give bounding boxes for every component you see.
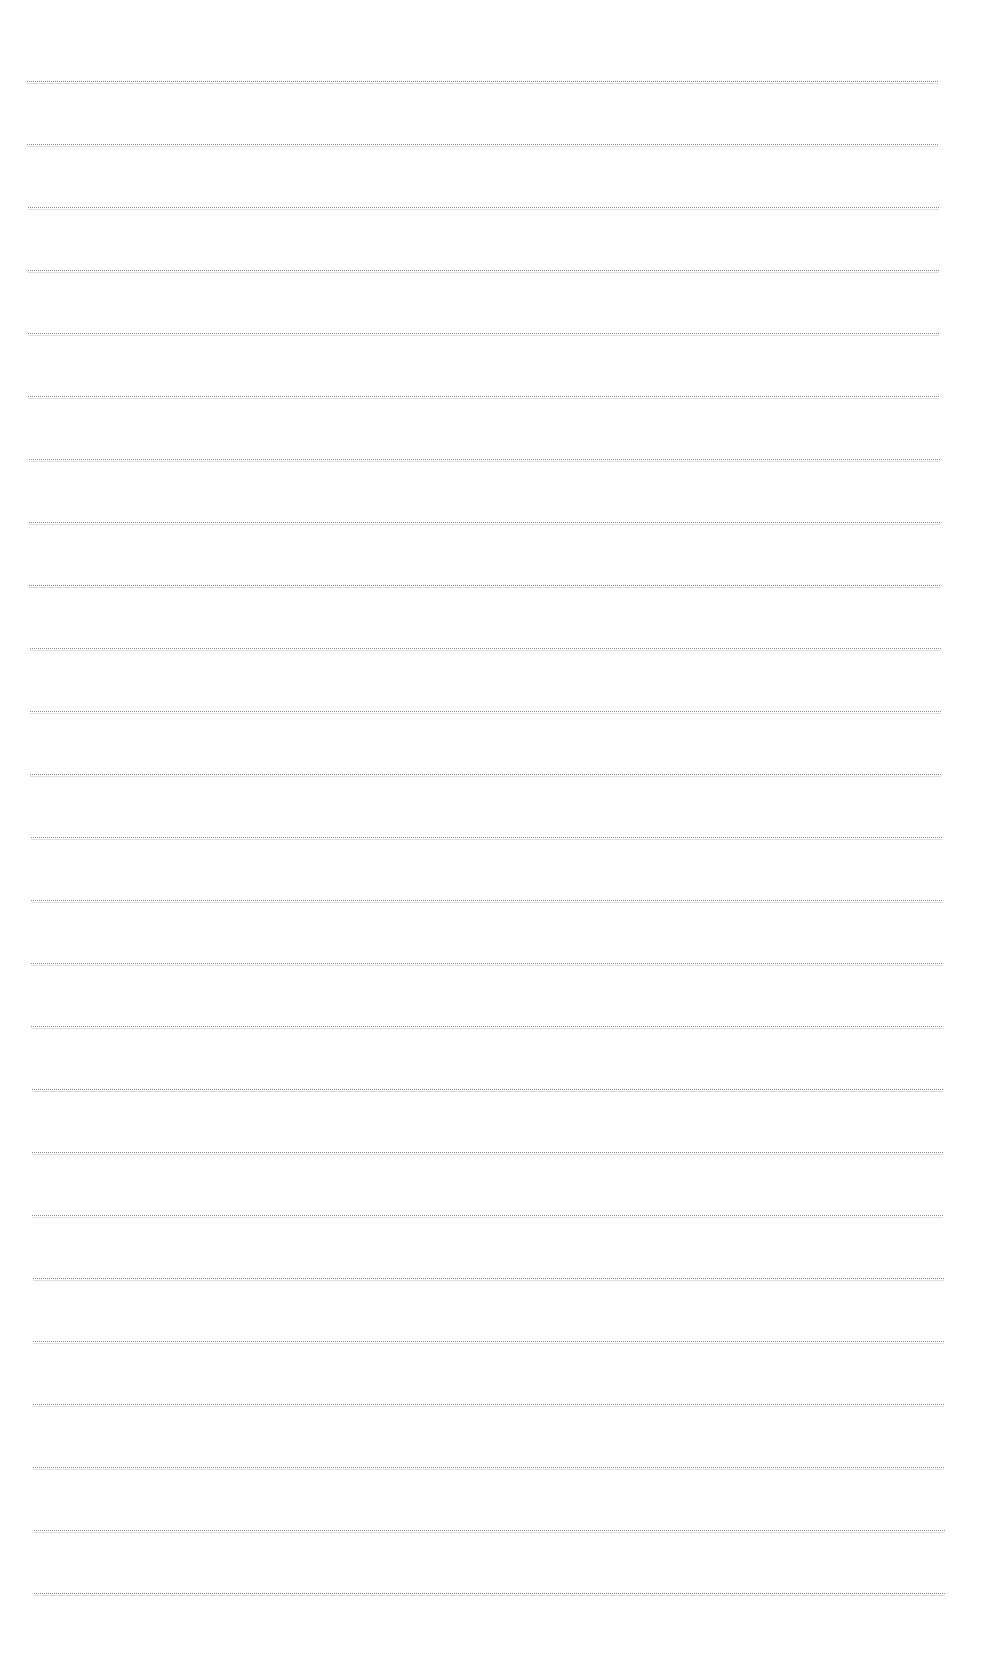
ruled-line [31,900,942,903]
ruled-line [29,522,940,525]
ruled-line [29,459,940,462]
ruled-line [28,333,939,336]
ruled-line [34,1530,945,1533]
ruled-line [34,1593,945,1596]
ruled-line [31,963,942,966]
ruled-line [29,585,940,588]
ruled-line [30,648,941,651]
ruled-line [33,1278,944,1281]
ruled-line [31,1026,942,1029]
ruled-line [31,837,942,840]
ruled-line [32,1152,943,1155]
ruled-line [32,1215,943,1218]
ruled-line [30,774,941,777]
ruled-line [27,81,938,84]
ruled-line [27,144,938,147]
ruled-line [33,1341,944,1344]
ruled-paper-sheet [0,0,987,1659]
ruled-line [33,1467,944,1470]
ruled-line [32,1089,943,1092]
ruled-line [28,207,939,210]
ruled-line [33,1404,944,1407]
ruled-line [30,711,941,714]
ruled-line [28,270,939,273]
ruled-line [28,396,939,399]
